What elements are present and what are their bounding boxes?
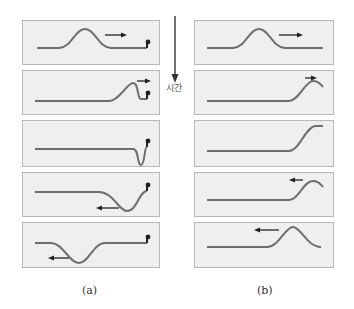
time-label: 시간 [166,81,182,94]
panel-b-1 [194,20,334,65]
arrow-left-icon [48,256,54,261]
arrow-left-icon [96,206,102,211]
panel-b-2 [194,70,334,115]
pulse-wave-a-2 [23,71,161,116]
arrow-right-icon [121,33,127,38]
arrow-right-icon [297,33,303,38]
panel-a-1 [22,20,160,65]
pulse-wave-a-1 [23,21,161,66]
panel-a-3 [22,120,160,167]
pulse-wave-b-3 [195,121,335,168]
fixed-end-icon [146,40,151,48]
pulse-wave-a-3 [23,121,161,168]
pulse-wave-b-4 [195,173,335,218]
time-arrow-icon [168,14,182,84]
pulse-wave-b-1 [195,21,335,66]
panel-b-3 [194,120,334,167]
pulse-wave-b-2 [195,71,335,116]
panel-b-4 [194,172,334,217]
arrow-left-icon [289,178,295,183]
panel-a-4 [22,172,160,217]
fixed-end-icon [146,183,151,191]
pulse-wave-a-5 [23,223,161,269]
panel-a-5 [22,222,160,268]
fixed-end-icon [146,139,151,147]
pulse-wave-a-4 [23,173,161,218]
caption-b: (b) [257,284,273,297]
caption-a: (a) [82,284,97,297]
panel-a-2 [22,70,160,115]
arrow-right-icon [311,76,317,81]
arrow-right-icon [145,79,151,84]
fixed-end-icon [146,235,151,243]
pulse-wave-b-5 [195,223,335,269]
fixed-end-icon [146,91,151,99]
panel-b-5 [194,222,334,268]
arrow-left-icon [254,228,260,233]
